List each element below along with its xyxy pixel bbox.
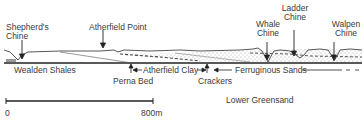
label-wealden-shales: Wealden Shales — [14, 66, 76, 75]
label-ferruginous-sands: Ferruginous Sands — [235, 66, 307, 75]
scale-start-label: 0 — [5, 109, 10, 118]
label-line: Chine — [280, 13, 310, 22]
label-line: Chine — [330, 29, 362, 38]
label-whale-chine: Whale Chine — [254, 20, 282, 38]
label-atherfield-clay: Atherfield Clay — [143, 66, 198, 75]
label-walpen-chine: Walpen Chine — [330, 20, 362, 38]
label-perna-bed: Perna Bed — [113, 77, 153, 86]
label-lower-greensand: Lower Greensand — [226, 96, 294, 105]
geological-cross-section: Shepherd's Chine Atherfield Point Whale … — [0, 0, 364, 124]
label-atherfield-point: Atherfield Point — [89, 23, 147, 32]
scale-end-label: 800m — [141, 109, 162, 118]
label-shepherds-chine: Shepherd's Chine — [6, 23, 49, 41]
shepherds-chine-outcrop — [6, 59, 16, 62]
label-line: Chine — [254, 29, 282, 38]
label-line: Chine — [6, 32, 49, 41]
scale-bar — [6, 98, 153, 104]
label-crackers: Crackers — [198, 77, 232, 86]
label-ladder-chine: Ladder Chine — [280, 4, 310, 22]
